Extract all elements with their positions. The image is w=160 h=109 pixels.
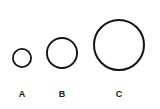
circle-label-a: A xyxy=(14,90,30,99)
circle-b xyxy=(47,38,77,68)
circle-c xyxy=(94,20,144,70)
circle-a xyxy=(13,49,31,67)
circle-label-b: B xyxy=(54,90,70,99)
circle-label-c: C xyxy=(111,90,127,99)
circles-figure: A B C xyxy=(0,0,160,109)
